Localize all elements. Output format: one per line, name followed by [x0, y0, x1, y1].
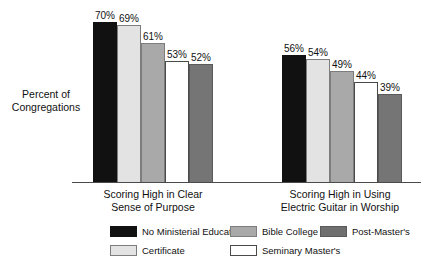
- bar-value-label: 70%: [95, 10, 115, 21]
- bar-slot: 49%: [330, 11, 354, 183]
- legend-swatch-icon: [320, 226, 347, 237]
- legend-label: Certificate: [142, 245, 185, 256]
- bar-value-label: 54%: [308, 47, 328, 58]
- bar-slot: 52%: [189, 11, 213, 183]
- bar-value-label: 53%: [167, 49, 187, 60]
- bar-value-label: 61%: [143, 31, 163, 42]
- legend-label: Post-Master's: [352, 226, 410, 237]
- legend-item-bible-college: Bible College: [230, 226, 318, 237]
- plot-area: 70% 69% 61% 53% 52% 56%: [72, 10, 422, 183]
- bar-value-label: 56%: [284, 43, 304, 54]
- bar-slot: 53%: [165, 11, 189, 183]
- bar-value-label: 39%: [380, 82, 400, 93]
- legend-label: Seminary Master's: [262, 245, 340, 256]
- bar-slot: 39%: [378, 11, 402, 183]
- legend-swatch-icon: [230, 226, 257, 237]
- bar-certificate-g0: [117, 25, 141, 183]
- bar-seminary-masters-g0: [165, 61, 189, 183]
- legend-label: Bible College: [262, 226, 318, 237]
- bar-value-label: 69%: [119, 13, 139, 24]
- category-label-line-1: Scoring High in Clear: [63, 188, 243, 201]
- bar-slot: 61%: [141, 11, 165, 183]
- legend-swatch-icon: [110, 245, 137, 256]
- bar-slot: 69%: [117, 11, 141, 183]
- bar-slot: 54%: [306, 11, 330, 183]
- category-label-line-1: Scoring High in Using: [250, 188, 430, 201]
- bar-value-label: 49%: [332, 59, 352, 70]
- x-axis-line: [72, 182, 421, 183]
- bar-bible-college-g0: [141, 43, 165, 183]
- category-label-line-2: Electric Guitar in Worship: [250, 201, 430, 214]
- bar-slot: 44%: [354, 11, 378, 183]
- legend-item-seminary-masters: Seminary Master's: [230, 245, 340, 256]
- legend-item-post-masters: Post-Master's: [320, 226, 410, 237]
- bar-value-label: 44%: [356, 70, 376, 81]
- category-label-clear-sense-of-purpose: Scoring High in Clear Sense of Purpose: [63, 188, 243, 214]
- legend-swatch-icon: [110, 226, 137, 237]
- bar-bible-college-g1: [330, 71, 354, 183]
- legend-item-no-ministerial-education: No Ministerial Education: [110, 226, 244, 237]
- bar-chart: Percent of Congregations 70% 69% 61% 53%: [0, 0, 434, 275]
- category-label-electric-guitar-in-worship: Scoring High in Using Electric Guitar in…: [250, 188, 430, 214]
- bar-seminary-masters-g1: [354, 82, 378, 183]
- legend-item-certificate: Certificate: [110, 245, 185, 256]
- bar-post-masters-g0: [189, 64, 213, 183]
- category-label-line-2: Sense of Purpose: [63, 201, 243, 214]
- bar-no-ministerial-education-g1: [282, 55, 306, 183]
- bar-no-ministerial-education-g0: [93, 22, 117, 183]
- bar-group-electric-guitar-in-worship: 56% 54% 49% 44% 39%: [282, 11, 402, 183]
- bar-slot: 70%: [93, 11, 117, 183]
- legend-swatch-icon: [230, 245, 257, 256]
- bar-value-label: 52%: [191, 52, 211, 63]
- bar-post-masters-g1: [378, 94, 402, 183]
- bar-group-clear-sense-of-purpose: 70% 69% 61% 53% 52%: [93, 11, 213, 183]
- bar-certificate-g1: [306, 59, 330, 183]
- bar-slot: 56%: [282, 11, 306, 183]
